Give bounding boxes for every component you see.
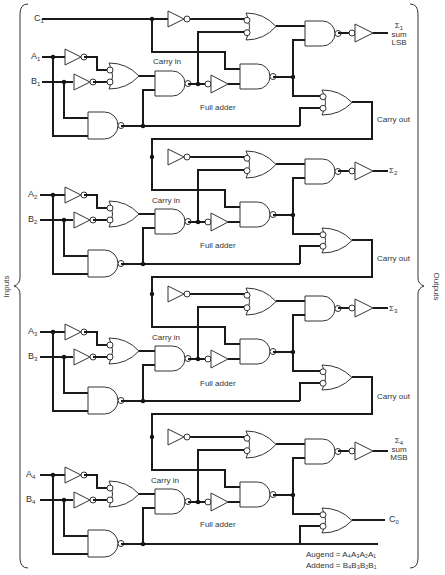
input-b2-label: B2 — [28, 215, 37, 225]
inversion-bubble — [107, 354, 113, 360]
nand-gate — [240, 339, 270, 364]
wire — [293, 215, 320, 234]
inputs-brace — [14, 4, 28, 568]
junction-dot — [196, 500, 200, 504]
nand-gate — [88, 112, 118, 139]
full-adder-label-4: Full adder — [200, 521, 236, 529]
or-gate — [109, 201, 139, 227]
inverter-gate — [74, 212, 90, 228]
wire — [198, 170, 244, 222]
wire — [293, 40, 305, 77]
inversion-bubble — [107, 485, 113, 491]
inverter-gate — [74, 74, 90, 90]
or-gate — [109, 338, 139, 364]
inversion-bubble — [107, 205, 113, 211]
or-gate — [246, 13, 276, 40]
wire — [143, 508, 155, 544]
augend-note: Augend = A₄A₃A₂A₁ — [306, 551, 376, 559]
inversion-bubble — [205, 356, 211, 362]
sum-1-label: Σ1 sum LSB — [389, 22, 409, 47]
full-adder-stage-1 — [42, 11, 388, 157]
final-carry-label: C0 — [389, 515, 399, 525]
carry-in-label-3: Carry in — [152, 334, 180, 342]
input-b1-label: B1 — [31, 77, 40, 87]
or-gate — [109, 63, 139, 89]
nand-gate — [240, 64, 270, 89]
input-a3-label: A3 — [28, 327, 37, 337]
or-gate — [322, 90, 352, 115]
inverter-gate — [65, 49, 81, 65]
buffer-gate — [211, 350, 228, 368]
inversion-bubble — [184, 16, 190, 22]
full-adder-stage-4 — [40, 424, 388, 557]
inversion-bubble — [320, 232, 326, 238]
inversion-bubble — [107, 67, 113, 73]
adder-circuit — [0, 0, 445, 575]
full-adder-stage-3 — [40, 281, 388, 432]
inversion-bubble — [244, 30, 250, 36]
carry-in-label-1: Carry in — [153, 58, 181, 66]
wire — [53, 195, 88, 274]
inversion-bubble — [107, 497, 113, 503]
nand-gate — [88, 250, 118, 277]
nand-gate — [240, 482, 270, 507]
or-gate — [246, 431, 276, 458]
inversion-bubble — [244, 448, 250, 454]
nand-gate — [240, 202, 270, 227]
outputs-label: Outputs — [432, 272, 441, 300]
inversion-bubble — [244, 435, 250, 441]
wire — [198, 307, 244, 359]
wire — [293, 352, 320, 371]
full-adder-label-2: Full adder — [200, 242, 236, 250]
inversion-bubble — [205, 81, 211, 87]
wire — [198, 32, 244, 84]
full-adder-label-1: Full adder — [200, 104, 236, 112]
carry-out-label-2: Carry out — [377, 255, 410, 263]
nand-gate — [88, 530, 118, 557]
or-gate — [109, 481, 139, 507]
or-gate — [322, 228, 352, 253]
wire — [300, 246, 320, 264]
input-a1-label: A1 — [31, 52, 40, 62]
nand-gate — [155, 489, 185, 514]
buffer-gate — [211, 75, 228, 93]
inverter-gate — [65, 187, 81, 203]
inverter-gate — [168, 149, 184, 165]
inversion-bubble — [320, 523, 326, 529]
inversion-bubble — [320, 512, 326, 518]
inversion-bubble — [184, 154, 190, 160]
wire — [300, 383, 320, 401]
input-b4-label: B4 — [26, 495, 35, 505]
addend-note: Addend = B₄B₃B₂B₁ — [306, 562, 376, 570]
inversion-bubble — [244, 168, 250, 174]
wire — [84, 195, 107, 208]
or-gate — [322, 508, 352, 533]
wire — [143, 228, 155, 264]
inversion-bubble — [349, 448, 355, 454]
wire — [53, 332, 88, 411]
full-adder-label-3: Full adder — [200, 380, 236, 388]
junction-dot — [196, 357, 200, 361]
nand-gate — [88, 387, 118, 414]
sum-3-label: Σ3 — [389, 305, 397, 314]
inversion-bubble — [320, 94, 326, 100]
wire — [84, 475, 107, 488]
wire — [300, 108, 320, 126]
buffer-gate — [211, 213, 228, 231]
inversion-bubble — [244, 17, 250, 23]
inverter-gate — [168, 429, 184, 445]
inverter-gate — [74, 349, 90, 365]
inversion-bubble — [349, 30, 355, 36]
inversion-bubble — [320, 105, 326, 111]
buffer-gate — [355, 24, 373, 42]
inversion-bubble — [244, 305, 250, 311]
wire — [293, 178, 305, 215]
buffer-gate — [355, 162, 373, 180]
wire — [84, 332, 107, 345]
wire — [143, 90, 155, 126]
full-adder-stage-2 — [40, 144, 388, 295]
wire — [293, 495, 320, 514]
inversion-bubble — [349, 168, 355, 174]
inversion-bubble — [320, 380, 326, 386]
carry-in-label-4: Carry in — [151, 477, 179, 485]
